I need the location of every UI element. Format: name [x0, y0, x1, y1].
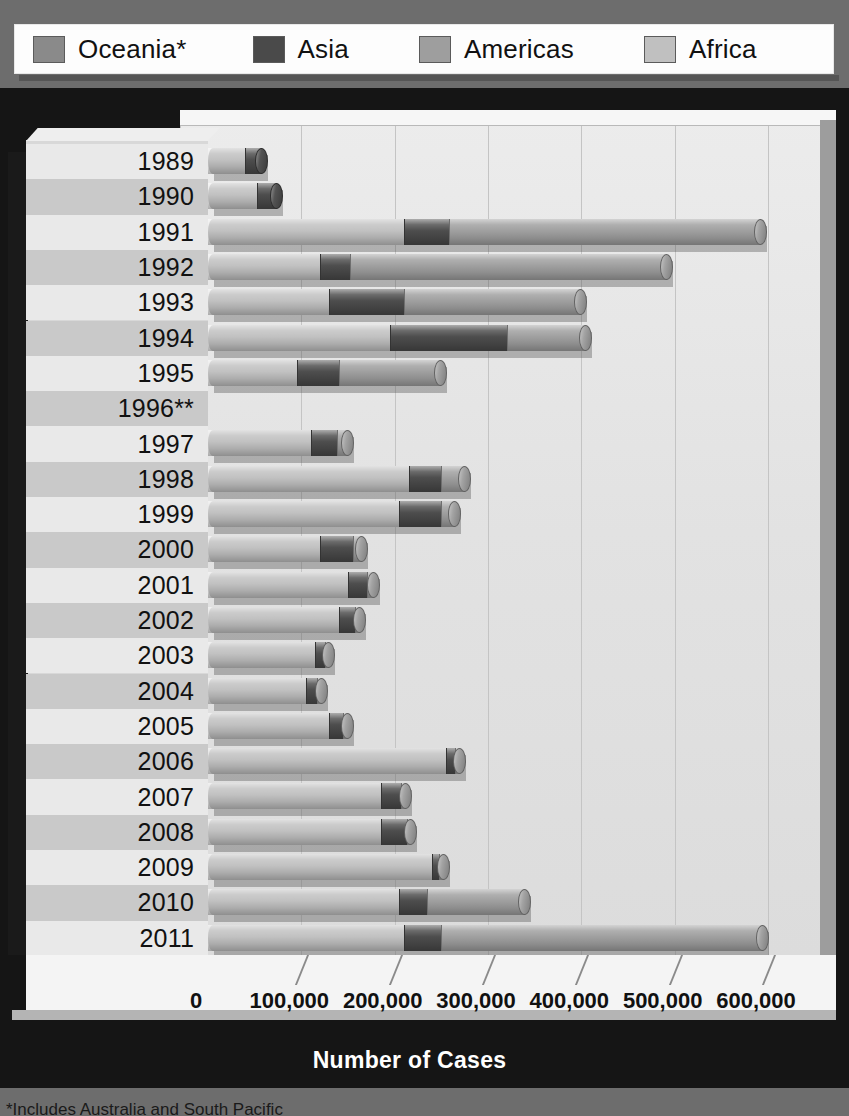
bar-segment-africa	[208, 572, 348, 598]
bar-segment-americas	[350, 254, 667, 280]
bar-segment-africa	[208, 183, 257, 209]
bar-end-cap	[399, 783, 412, 809]
bar-stack	[208, 466, 465, 492]
bar-segment-africa	[208, 678, 306, 704]
bar-end-cap	[453, 748, 466, 774]
bar-2008[interactable]	[208, 819, 411, 845]
legend-swatch-americas	[419, 36, 451, 63]
bar-segment-africa	[208, 642, 315, 668]
bar-segment-asia	[404, 219, 449, 245]
bar-segment-africa	[208, 607, 339, 633]
bar-stack	[208, 713, 348, 739]
bar-end-cap	[458, 466, 471, 492]
bar-segment-africa	[208, 501, 399, 527]
bar-segment-africa	[208, 325, 390, 351]
footnote: *Includes Australia and South Pacific	[6, 1100, 283, 1116]
bar-segment-africa	[208, 360, 297, 386]
bar-segment-asia	[320, 254, 350, 280]
bar-1997[interactable]	[208, 430, 348, 456]
bar-end-cap	[353, 607, 366, 633]
bar-stack	[208, 572, 374, 598]
bar-2004[interactable]	[208, 678, 322, 704]
bar-segment-africa	[208, 466, 409, 492]
bar-stack	[208, 183, 277, 209]
bar-segment-asia	[329, 289, 404, 315]
bar-stack	[208, 430, 348, 456]
tick-label-200000: 200,000	[343, 988, 423, 1014]
legend-label-africa: Africa	[689, 34, 757, 65]
chart-legend: Oceania*AsiaAmericasAfrica	[14, 24, 834, 74]
bar-segment-asia	[348, 572, 367, 598]
bar-2011[interactable]	[208, 925, 763, 951]
legend-swatch-asia	[253, 36, 285, 63]
x-axis-title: Number of Cases	[0, 1047, 849, 1074]
bar-segment-asia	[311, 430, 337, 456]
legend-item-asia[interactable]: Asia	[253, 34, 349, 65]
bar-stack	[208, 325, 586, 351]
bar-segment-asia	[399, 889, 427, 915]
bar-segment-americas	[427, 889, 525, 915]
bar-2006[interactable]	[208, 748, 460, 774]
bar-1991[interactable]	[208, 219, 761, 245]
bar-segment-africa	[208, 254, 320, 280]
bar-segment-africa	[208, 854, 432, 880]
bar-stack	[208, 854, 444, 880]
bar-segment-asia	[390, 325, 507, 351]
bar-stack	[208, 607, 360, 633]
bar-stack	[208, 783, 406, 809]
bar-2000[interactable]	[208, 536, 362, 562]
bar-segment-africa	[208, 889, 399, 915]
bar-1999[interactable]	[208, 501, 455, 527]
bar-segment-americas	[404, 289, 581, 315]
bar-1992[interactable]	[208, 254, 667, 280]
chart-panel: Year 19891990199119921993199419951996**1…	[0, 88, 849, 1088]
bar-segment-asia	[399, 501, 441, 527]
tick-label-300000: 300,000	[436, 988, 516, 1014]
bar-1998[interactable]	[208, 466, 465, 492]
bars-layer	[8, 110, 836, 1035]
bar-2002[interactable]	[208, 607, 360, 633]
legend-item-oceania[interactable]: Oceania*	[33, 34, 187, 65]
bar-stack	[208, 219, 761, 245]
bar-1989[interactable]	[208, 148, 262, 174]
bar-segment-americas	[449, 219, 762, 245]
legend-item-americas[interactable]: Americas	[419, 34, 574, 65]
x-axis-floor-front-face	[12, 1010, 836, 1020]
bar-end-cap	[367, 572, 380, 598]
legend-label-americas: Americas	[464, 34, 574, 65]
bar-segment-americas	[507, 325, 586, 351]
bar-segment-americas	[441, 925, 763, 951]
legend-swatch-oceania	[33, 36, 65, 63]
bar-stack	[208, 889, 525, 915]
bar-segment-asia	[404, 925, 441, 951]
bar-2001[interactable]	[208, 572, 374, 598]
bar-1995[interactable]	[208, 360, 441, 386]
bar-segment-asia	[320, 536, 353, 562]
bar-segment-asia	[409, 466, 442, 492]
bar-segment-africa	[208, 925, 404, 951]
bar-end-cap	[315, 678, 328, 704]
bar-2007[interactable]	[208, 783, 406, 809]
bar-1993[interactable]	[208, 289, 581, 315]
bar-2005[interactable]	[208, 713, 348, 739]
legend-label-oceania: Oceania*	[78, 34, 187, 65]
legend-item-africa[interactable]: Africa	[644, 34, 757, 65]
bar-1990[interactable]	[208, 183, 277, 209]
bar-segment-africa	[208, 713, 329, 739]
tick-label-0: 0	[190, 988, 202, 1014]
bar-segment-asia	[381, 819, 407, 845]
bar-segment-asia	[297, 360, 339, 386]
bar-stack	[208, 536, 362, 562]
bar-stack	[208, 289, 581, 315]
bar-segment-africa	[208, 148, 245, 174]
legend-swatch-africa	[644, 36, 676, 63]
bar-2009[interactable]	[208, 854, 444, 880]
bar-end-cap	[579, 325, 592, 351]
tick-label-400000: 400,000	[530, 988, 610, 1014]
bar-2003[interactable]	[208, 642, 329, 668]
bar-2010[interactable]	[208, 889, 525, 915]
bar-1994[interactable]	[208, 325, 586, 351]
x-axis-floor	[26, 955, 836, 1010]
bar-segment-africa	[208, 430, 311, 456]
plot-area: 19891990199119921993199419951996**199719…	[8, 110, 836, 1035]
